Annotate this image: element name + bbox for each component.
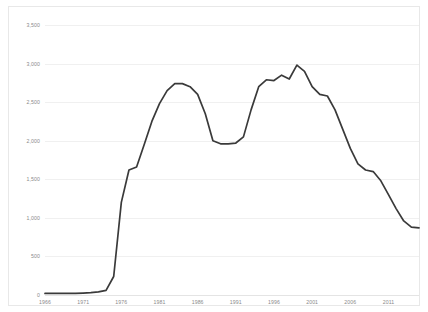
y-tick-label: 500 xyxy=(31,253,40,259)
y-tick-label: 0 xyxy=(37,292,40,298)
x-tick-label: 2001 xyxy=(306,299,318,305)
y-tick-label: 3,500 xyxy=(27,22,40,28)
y-tick-label: 2,500 xyxy=(27,99,40,105)
x-tick-label: 1966 xyxy=(39,299,51,305)
x-tick-label: 1991 xyxy=(230,299,242,305)
x-tick-label: 1986 xyxy=(192,299,204,305)
chart-frame: 3,5003,0002,5002,0001,5001,0005000 19661… xyxy=(8,6,420,306)
series-line-1 xyxy=(45,65,419,293)
x-tick-label: 2011 xyxy=(383,299,395,305)
line-chart-figure: 3,5003,0002,5002,0001,5001,0005000 19661… xyxy=(0,0,428,312)
y-tick-label: 1,500 xyxy=(27,176,40,182)
y-tick-label: 2,000 xyxy=(27,138,40,144)
x-tick-label: 1976 xyxy=(115,299,127,305)
x-tick-label: 1996 xyxy=(268,299,280,305)
y-tick-label: 1,000 xyxy=(27,215,40,221)
x-tick-label: 2006 xyxy=(344,299,356,305)
series-canvas xyxy=(45,25,419,295)
plot-area: 3,5003,0002,5002,0001,5001,0005000 19661… xyxy=(45,25,419,295)
x-tick-label: 1971 xyxy=(77,299,89,305)
x-tick-label: 1981 xyxy=(154,299,166,305)
y-tick-label: 3,000 xyxy=(27,61,40,67)
gridline-0 xyxy=(45,295,419,296)
